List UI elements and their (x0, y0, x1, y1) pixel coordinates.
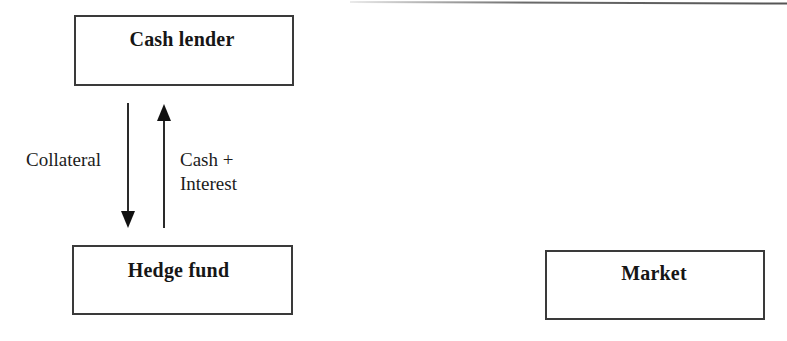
node-label-cash-lender: Cash lender (76, 28, 292, 50)
node-label-hedge-fund: Hedge fund (74, 259, 291, 281)
node-label-market: Market (547, 262, 763, 284)
node-cash-lender: Cash lender (74, 15, 294, 86)
node-market: Market (545, 250, 765, 320)
edge-label-cash-interest: Cash + Interest (180, 148, 237, 196)
top-divider-line (350, 1, 787, 5)
diagram-canvas: Cash lender Hedge fund Market Collateral… (0, 0, 787, 341)
arrow-down-collateral-icon (121, 103, 135, 228)
edge-label-cash-line: Cash + (180, 148, 237, 172)
edge-label-collateral: Collateral (26, 148, 101, 172)
arrow-up-cash-interest-icon (157, 104, 171, 228)
edge-label-interest-line: Interest (180, 172, 237, 196)
node-hedge-fund: Hedge fund (72, 245, 293, 315)
